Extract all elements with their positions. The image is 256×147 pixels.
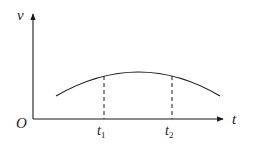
- velocity-curve: [56, 72, 220, 96]
- origin-label: O: [16, 115, 27, 131]
- y-axis-label: v: [17, 7, 24, 23]
- t1-label: t1: [97, 123, 105, 140]
- vt-graph: v t O t1 t2: [0, 0, 256, 147]
- t2-label: t2: [165, 123, 173, 140]
- x-axis-label: t: [232, 111, 237, 127]
